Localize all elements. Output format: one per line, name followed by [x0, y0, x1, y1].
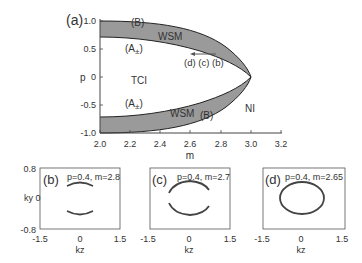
x-tick-neg1.5: -1.5 [254, 234, 270, 244]
panel-c: (c) p=0.4, m=2.7 -1.5 0 1.5 kz [140, 168, 236, 255]
panel-d: (d) p=0.4, m=2.65 -1.5 0 1.5 kz [254, 168, 348, 255]
x-tick-1.5: 1.5 [114, 234, 127, 244]
label-wsm-top: WSM [158, 31, 182, 42]
x-tick-neg1.5: -1.5 [32, 234, 48, 244]
y-tick-0.8: 0.8 [23, 164, 36, 174]
x-tick-3.0: 3.0 [245, 139, 258, 149]
y-tick-0.5: 0.5 [83, 44, 96, 54]
x-tick-2.2: 2.2 [124, 139, 137, 149]
x-tick-neg1.5: -1.5 [140, 234, 156, 244]
label-ni: NI [245, 103, 255, 114]
x-axis-label-kz: kz [185, 245, 195, 255]
label-wsm-bottom: WSM [170, 108, 194, 119]
y-tick-0: 0 [91, 72, 96, 82]
panel-b-title: p=0.4, m=2.8 [67, 172, 120, 182]
x-tick-2.8: 2.8 [215, 139, 228, 149]
panel-label-c: (c) [152, 172, 167, 187]
panel-label-a: (a) [66, 12, 83, 28]
x-tick-2.6: 2.6 [184, 139, 197, 149]
x-tick-0: 0 [77, 234, 82, 244]
y-tick-neg1.0: -1.0 [80, 128, 96, 138]
x-axis-label-kz: kz [76, 245, 86, 255]
x-tick-3.2: 3.2 [275, 139, 288, 149]
panel-label-b: (b) [43, 172, 59, 187]
label-A-top: (A±) [125, 43, 143, 56]
figure: 1.0 0.5 0 -0.5 -1.0 2.0 2.2 2.4 2.6 2.8 … [0, 0, 362, 263]
label-dcb: (d) (c) (b) [184, 57, 224, 68]
arrow-head [190, 52, 195, 56]
x-tick-1.5: 1.5 [224, 234, 237, 244]
x-tick-0: 0 [298, 234, 303, 244]
panel-d-title: p=0.4, m=2.65 [285, 172, 343, 182]
label-tci: TCI [131, 75, 147, 86]
panel-b: (b) p=0.4, m=2.8 0.8 ky 0 -0.8 -1.5 0 1.… [20, 164, 126, 255]
label-A-bottom: (A±) [125, 98, 143, 111]
panel-label-d: (d) [265, 172, 281, 187]
x-tick-1.5: 1.5 [336, 234, 349, 244]
label-B-bottom: (B) [200, 110, 213, 121]
x-tick-2.4: 2.4 [154, 139, 167, 149]
x-tick-2.0: 2.0 [94, 139, 107, 149]
panel-a: 1.0 0.5 0 -0.5 -1.0 2.0 2.2 2.4 2.6 2.8 … [66, 12, 287, 161]
x-axis-label-kz: kz [297, 245, 307, 255]
y-axis-label-ky: ky 0 [24, 193, 41, 203]
y-axis-label-p: p [80, 72, 86, 83]
y-tick-neg0.5: -0.5 [80, 100, 96, 110]
x-tick-0: 0 [186, 234, 191, 244]
y-tick-1.0: 1.0 [83, 16, 96, 26]
x-axis-label-m: m [186, 150, 194, 161]
label-B-top: (B) [131, 17, 144, 28]
panel-c-title: p=0.4, m=2.7 [177, 172, 230, 182]
